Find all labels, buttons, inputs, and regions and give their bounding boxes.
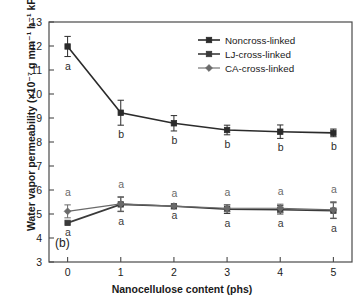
data-point-marker [65,44,70,49]
series-lj-cross-linked: aaaaaa [65,197,337,238]
significance-label: a [331,183,337,195]
significance-label: b [331,140,337,152]
significance-label: a [118,178,124,190]
significance-label: a [118,215,124,227]
significance-label: a [331,222,337,234]
significance-label: b [118,128,124,140]
chart-plot-area: abbbbbaaaaaaaaaaaaNoncross-linkedLJ-cros… [0,0,364,308]
legend-label: LJ-cross-linked [225,49,291,60]
legend-item-2[interactable]: CA-cross-linked [198,63,294,74]
series-ca-cross-linked: aaaaaa [64,178,337,218]
significance-label: a [65,186,71,198]
data-point-marker [65,220,70,225]
significance-label: b [278,141,284,153]
panel-label: (b) [55,236,70,250]
data-point-marker [64,208,71,215]
legend-item-1[interactable]: LJ-cross-linked [198,49,291,60]
significance-label: a [225,186,231,198]
data-point-marker [331,130,336,135]
significance-label: a [278,185,284,197]
legend-label: CA-cross-linked [225,63,294,74]
data-point-marker [206,37,211,42]
figure-panel: Water vapor permeability (×10⁻⁷ g mm⁻¹ h… [0,0,364,308]
data-point-marker [118,110,123,115]
significance-label: a [225,217,231,229]
series-line [68,46,334,132]
legend-item-0[interactable]: Noncross-linked [198,35,295,46]
significance-label: b [225,138,231,150]
data-point-marker [278,129,283,134]
significance-label: a [65,60,71,72]
significance-label: a [278,217,284,229]
axis-frame [49,22,352,262]
data-point-marker [224,127,229,132]
significance-label: a [171,187,177,199]
data-point-marker [171,121,176,126]
legend-label: Noncross-linked [225,35,295,46]
data-point-marker [206,65,213,72]
significance-label: a [171,209,177,221]
significance-label: b [171,134,177,146]
data-point-marker [206,51,211,56]
